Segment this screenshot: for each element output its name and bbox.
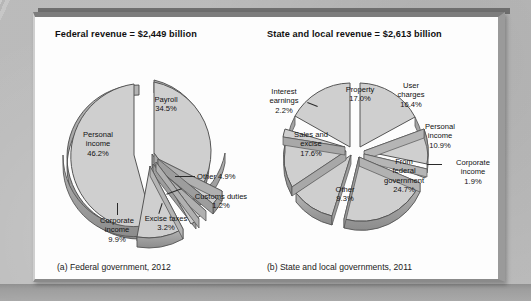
figure-panel: Federal revenue = $2,449 billion State a…	[33, 12, 505, 282]
caption-federal-government: (a) Federal government, 2012	[57, 262, 171, 272]
leader-line-corporate	[117, 203, 118, 215]
page-bottom-bar	[0, 284, 531, 301]
chart-title-federal: Federal revenue = $2,449 billion	[55, 29, 197, 39]
caption-state-local-governments: (b) State and local governments, 2011	[267, 262, 412, 272]
slice-personal-income	[63, 84, 154, 237]
chart-title-state: State and local revenue = $2,613 billion	[267, 29, 442, 39]
leader-line-other	[175, 176, 195, 177]
pie-chart-state-local	[248, 41, 463, 256]
leader-line-state-corporate	[427, 164, 442, 165]
pie-chart-federal	[37, 41, 252, 256]
